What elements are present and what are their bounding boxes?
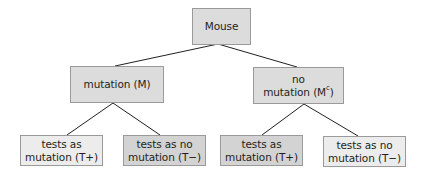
leaf-line1: tests as bbox=[41, 138, 81, 151]
edge-root-to-no-mutation bbox=[218, 44, 297, 67]
leaf-line1: tests as no bbox=[336, 139, 392, 152]
edge-mutation-to-tpos bbox=[67, 103, 113, 135]
edge-root-to-mutation bbox=[115, 44, 218, 66]
leaf-line2: mutation (T+) bbox=[25, 151, 98, 164]
leaf-line1: tests as no bbox=[136, 138, 192, 151]
no-mutation-line1: no bbox=[292, 73, 305, 86]
leaf-line2: mutation (T−) bbox=[128, 151, 201, 164]
root-node-mouse: Mouse bbox=[192, 8, 251, 45]
edge-nomutation-to-tneg bbox=[304, 104, 358, 136]
node-no-mutation: no mutation (Mc) bbox=[253, 67, 344, 104]
leaf-line2: mutation (T−) bbox=[328, 152, 401, 165]
mutation-label: mutation (M) bbox=[84, 78, 151, 91]
root-label: Mouse bbox=[205, 20, 239, 33]
node-no-mutation-tests-negative: tests as no mutation (T−) bbox=[323, 136, 406, 167]
edge-nomutation-to-tpos bbox=[262, 104, 304, 135]
complement-superscript: c bbox=[326, 84, 330, 92]
node-mutation: mutation (M) bbox=[70, 66, 164, 103]
node-no-mutation-tests-positive: tests as mutation (T+) bbox=[220, 135, 303, 166]
node-mutation-tests-negative: tests as no mutation (T−) bbox=[123, 135, 206, 166]
leaf-line1: tests as bbox=[241, 138, 281, 151]
no-mutation-line2: mutation (Mc) bbox=[263, 86, 334, 99]
leaf-line2: mutation (T+) bbox=[225, 151, 298, 164]
edge-mutation-to-tneg bbox=[113, 103, 160, 135]
node-mutation-tests-positive: tests as mutation (T+) bbox=[20, 135, 103, 166]
